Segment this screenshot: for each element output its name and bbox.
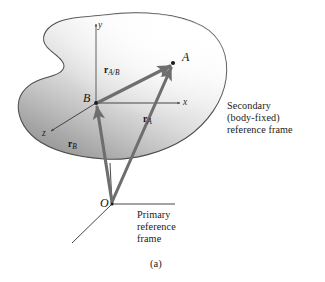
vector-subscript-a-over-b: A/B xyxy=(108,68,119,77)
primary-frame-annotation: Primary reference frame xyxy=(137,209,176,245)
axis-label-z: z xyxy=(42,128,46,139)
point-label-a: A xyxy=(182,50,189,64)
vector-subscript-a: A xyxy=(147,117,152,126)
secondary-frame-annotation: Secondary (body-fixed) reference frame xyxy=(227,100,293,136)
primary-frame-line-2: reference xyxy=(137,221,176,233)
point-marker-a xyxy=(171,61,175,65)
secondary-frame-line-3: reference frame xyxy=(227,124,293,136)
figure-container: A B O y x z rA/B rA rB Secondary (body-f… xyxy=(0,0,325,282)
point-label-o: O xyxy=(100,196,109,210)
point-marker-o xyxy=(110,202,113,205)
primary-frame-line-1: Primary xyxy=(137,209,176,221)
point-label-b: B xyxy=(83,91,90,105)
secondary-frame-line-2: (body-fixed) xyxy=(227,112,293,124)
vector-label-r-a-over-b: rA/B xyxy=(104,65,119,78)
secondary-frame-line-1: Secondary xyxy=(227,100,293,112)
point-marker-b xyxy=(94,101,98,105)
axis-label-y: y xyxy=(98,20,102,31)
axis-label-x: x xyxy=(183,97,187,108)
vector-label-r-a: rA xyxy=(143,114,152,127)
vector-subscript-b: B xyxy=(72,142,77,151)
vector-label-r-b: rB xyxy=(68,139,77,152)
rigid-body-shape xyxy=(18,13,226,159)
figure-caption: (a) xyxy=(150,258,162,270)
primary-frame-line-3: frame xyxy=(137,233,176,245)
body-specular-highlight xyxy=(18,13,226,159)
